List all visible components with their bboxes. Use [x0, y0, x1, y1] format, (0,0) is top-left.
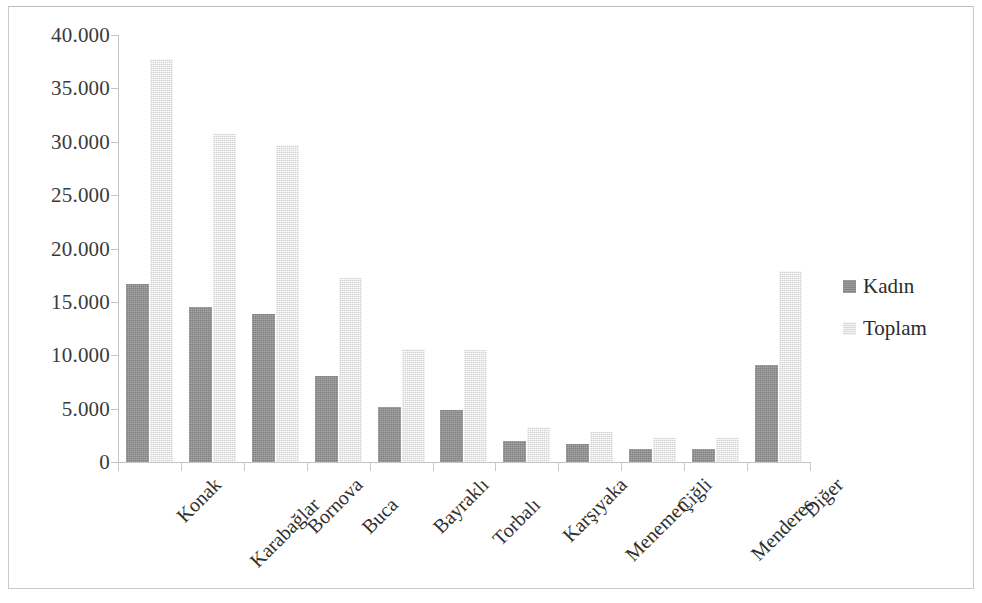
- bar-kadin: [755, 365, 778, 462]
- bar-toplam: [339, 278, 362, 462]
- x-axis-category-label: Diğer: [800, 474, 846, 520]
- bar-group: [495, 35, 558, 462]
- bar-group: [244, 35, 307, 462]
- bar-toplam: [527, 427, 550, 462]
- bar-group: [181, 35, 244, 462]
- y-axis-tick-label: 15.000: [51, 291, 110, 312]
- x-axis-category-label: Buca: [358, 494, 401, 537]
- bar-group: [684, 35, 747, 462]
- bar-toplam: [716, 438, 739, 462]
- bar-kadin: [629, 449, 652, 462]
- bar-group: [370, 35, 433, 462]
- legend-swatch-kadin: [843, 280, 856, 293]
- y-axis-tick-label: 10.000: [51, 345, 110, 366]
- bar-kadin: [189, 307, 212, 462]
- y-axis-tick-label: 40.000: [51, 25, 110, 46]
- bar-kadin: [378, 407, 401, 463]
- y-axis-labels: 05.00010.00015.00020.00025.00030.00035.0…: [18, 20, 110, 480]
- bar-group: [433, 35, 496, 462]
- bar-group: [621, 35, 684, 462]
- bar-toplam: [402, 349, 425, 462]
- legend-item-kadin: Kadın: [843, 265, 973, 307]
- bar-kadin: [252, 314, 275, 462]
- bar-chart: 05.00010.00015.00020.00025.00030.00035.0…: [0, 0, 982, 603]
- bar-kadin: [692, 449, 715, 462]
- y-axis-tick-label: 5.000: [62, 398, 110, 419]
- bar-group: [747, 35, 810, 462]
- chart-legend: Kadın Toplam: [843, 265, 973, 349]
- legend-swatch-toplam: [843, 322, 856, 335]
- x-axis-line: [118, 462, 810, 463]
- bar-toplam: [653, 438, 676, 462]
- y-axis-tick-label: 25.000: [51, 185, 110, 206]
- bar-kadin: [315, 376, 338, 462]
- bar-toplam: [464, 350, 487, 462]
- bar-group: [307, 35, 370, 462]
- x-axis-category-label: Torbalı: [489, 494, 544, 549]
- bar-toplam: [779, 271, 802, 462]
- bar-group: [558, 35, 621, 462]
- bar-kadin: [566, 444, 589, 462]
- bar-toplam: [276, 145, 299, 462]
- y-axis-tick-label: 20.000: [51, 238, 110, 259]
- x-axis-category-label: Karşıyaka: [559, 474, 630, 545]
- x-axis-category-label: Karabağlar: [246, 494, 323, 571]
- y-axis-tick-label: 35.000: [51, 78, 110, 99]
- bar-kadin: [440, 410, 463, 462]
- y-axis-tick-label: 0: [99, 452, 110, 473]
- bar-toplam: [213, 134, 236, 462]
- x-axis-category-label: Bayraklı: [429, 474, 492, 537]
- legend-label-toplam: Toplam: [863, 318, 927, 339]
- bar-toplam: [590, 432, 613, 462]
- plot-area: [118, 35, 810, 462]
- bar-group: [118, 35, 181, 462]
- bar-toplam: [150, 59, 173, 463]
- legend-item-toplam: Toplam: [843, 307, 973, 349]
- legend-label-kadin: Kadın: [863, 276, 914, 297]
- x-axis-labels: KonakKarabağlarBornovaBucaBayraklıTorbal…: [118, 468, 818, 598]
- bar-kadin: [503, 441, 526, 462]
- y-axis-tick-label: 30.000: [51, 131, 110, 152]
- x-axis-category-label: Konak: [173, 474, 225, 526]
- bar-kadin: [126, 284, 149, 462]
- chart-page: 05.00010.00015.00020.00025.00030.00035.0…: [0, 0, 982, 603]
